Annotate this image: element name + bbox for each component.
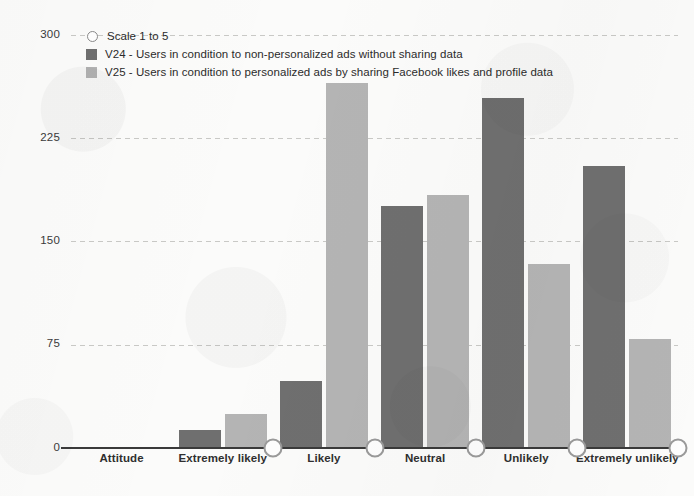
bar-v25-extremely-likely <box>225 414 267 448</box>
bar-v24-neutral <box>381 206 423 448</box>
bar-chart: 300 225 150 75 0 AttitudeExtremely likel… <box>0 0 694 496</box>
y-tick-label: 150 <box>16 234 60 246</box>
x-tick-label: Attitude <box>99 452 143 464</box>
gridline-225 <box>71 138 678 139</box>
scale-marker-unlikely <box>567 439 586 458</box>
legend-item-scale: Scale 1 to 5 <box>86 28 553 44</box>
bar-v25-unlikely <box>528 264 570 448</box>
plot-area <box>71 35 678 448</box>
y-tick-label: 300 <box>16 28 60 40</box>
legend-item-v25: V25 - Users in condition to personalized… <box>86 64 553 80</box>
bar-v25-neutral <box>427 195 469 448</box>
y-tick-label: 225 <box>16 131 60 143</box>
y-tick-label: 0 <box>16 441 60 453</box>
legend-label: V25 - Users in condition to personalized… <box>105 66 553 78</box>
square-dark-icon <box>86 49 97 60</box>
scale-marker-likely <box>365 439 384 458</box>
scale-marker-extremely-unlikely <box>669 439 688 458</box>
scale-marker-extremely-likely <box>264 439 283 458</box>
x-tick-label: Likely <box>307 452 340 464</box>
bar-v24-likely <box>280 381 322 448</box>
bar-v25-extremely-unlikely <box>629 339 671 448</box>
bar-v24-extremely-unlikely <box>583 166 625 448</box>
bar-v25-likely <box>326 83 368 448</box>
x-tick-label: Extremely likely <box>178 452 267 464</box>
square-light-icon <box>86 67 97 78</box>
scale-marker-neutral <box>466 439 485 458</box>
bar-v24-extremely-likely <box>179 430 221 448</box>
legend-label: Scale 1 to 5 <box>107 30 168 42</box>
bar-v24-unlikely <box>482 98 524 448</box>
x-tick-label: Neutral <box>405 452 445 464</box>
legend-item-v24: V24 - Users in condition to non-personal… <box>86 46 553 62</box>
circle-outline-icon <box>87 31 98 42</box>
legend-label: V24 - Users in condition to non-personal… <box>105 48 463 60</box>
x-tick-label: Extremely unlikely <box>576 452 679 464</box>
x-tick-label: Unlikely <box>504 452 549 464</box>
legend: Scale 1 to 5 V24 - Users in condition to… <box>86 28 553 82</box>
y-tick-label: 75 <box>16 337 60 349</box>
